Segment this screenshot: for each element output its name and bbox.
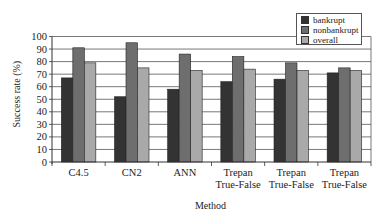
bars [61,43,361,162]
legend-swatch [301,36,309,44]
bar-overall [350,70,362,162]
bar-nonbankrupt [73,48,85,162]
y-tick-label: 0 [42,157,47,168]
bar-bankrupt [61,78,72,162]
x-tick-labels: C4.5CN2ANNTrepanTrue-FalseTrepanTrue-Fal… [69,167,368,190]
legend-item-nonbankrupt: nonbankrupt [301,25,361,35]
y-tick-label: 50 [37,94,48,105]
x-tick-label: Trepan [277,167,307,178]
y-tick-label: 60 [37,81,48,92]
bar-nonbankrupt [232,57,244,162]
x-tick-label: True-False [322,179,367,190]
y-tick-label: 30 [37,119,48,130]
x-tick-label: Trepan [223,167,253,178]
y-tick-label: 70 [37,69,48,80]
y-axis-label: Success rate (%) [11,68,22,128]
bar-nonbankrupt [126,43,138,162]
gridlines [52,37,371,150]
bar-overall [191,70,203,162]
bar-nonbankrupt [286,63,298,162]
x-tick-label: C4.5 [69,167,89,178]
y-tick-label: 40 [37,106,48,117]
bar-overall [138,68,150,162]
bar-bankrupt [221,82,233,162]
axes [49,37,371,167]
bar-nonbankrupt [339,68,351,162]
x-tick-label: True-False [216,179,261,190]
y-tick-label: 20 [37,131,48,142]
y-tick-label: 10 [37,144,48,155]
x-tick-label: ANN [174,167,197,178]
bar-bankrupt [274,79,286,162]
bar-overall [84,63,96,162]
bar-overall [244,69,256,162]
x-axis-label: Method [0,200,387,211]
x-tick-label: Trepan [330,167,360,178]
legend-swatch [301,16,309,24]
bar-bankrupt [115,97,127,162]
legend: bankrupt nonbankrupt overall [296,13,362,45]
y-tick-label: 100 [31,31,47,42]
legend-swatch [301,26,309,34]
legend-item-overall: overall [301,35,361,45]
legend-label: bankrupt [313,15,345,25]
x-tick-label: CN2 [122,167,142,178]
y-tick-label: 90 [37,44,48,55]
legend-label: overall [313,35,338,45]
y-tick-label: 80 [37,56,48,67]
legend-label: nonbankrupt [313,25,359,35]
bar-bankrupt [168,89,180,162]
y-tick-labels: 0102030405060708090100 [31,31,47,168]
legend-item-bankrupt: bankrupt [301,15,361,25]
bar-nonbankrupt [179,54,191,162]
bar-overall [297,70,309,162]
bar-bankrupt [327,73,339,162]
x-tick-label: True-False [269,179,314,190]
